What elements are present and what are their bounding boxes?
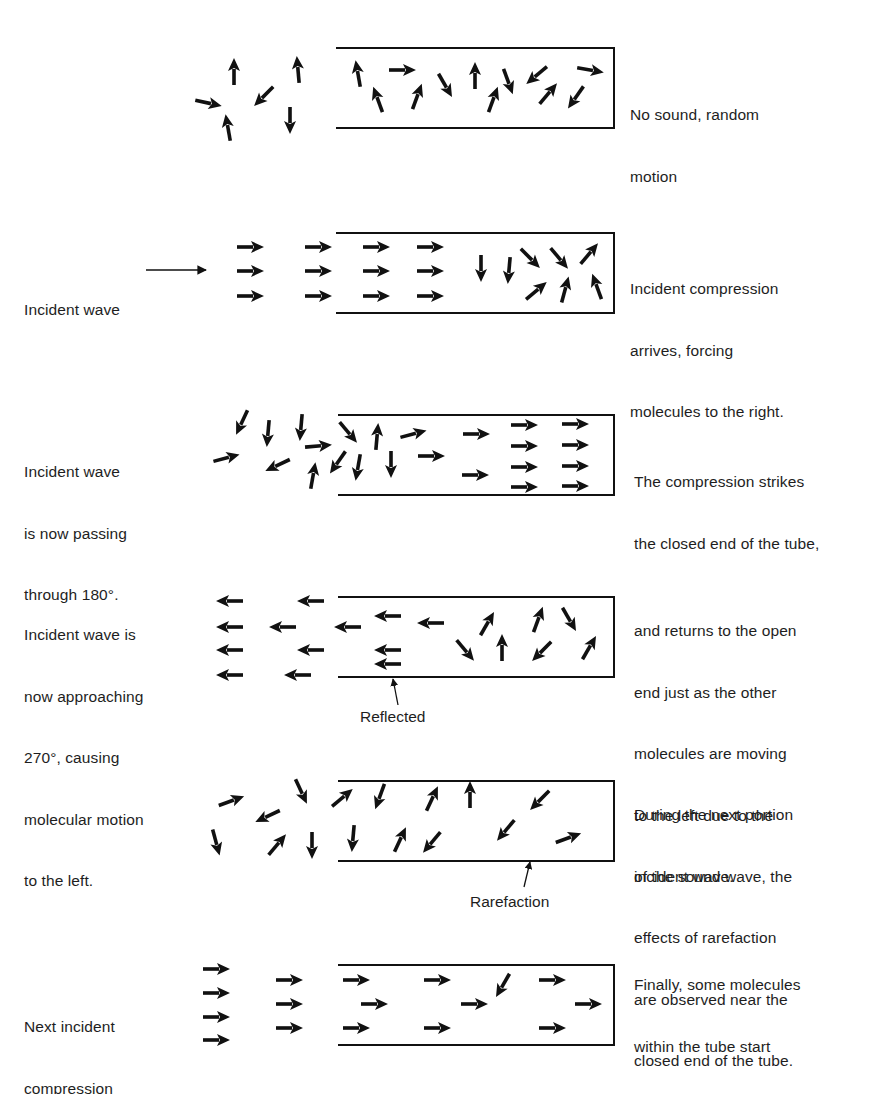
molecule-arrow-icon	[284, 669, 311, 681]
caption-line: motion	[630, 167, 759, 188]
molecule-arrow-icon	[522, 277, 550, 304]
molecule-arrow-icon	[475, 255, 487, 282]
molecule-arrow-icon	[562, 480, 589, 492]
molecule-arrow-icon	[577, 633, 601, 662]
molecule-arrow-icon	[511, 419, 538, 431]
molecule-arrow-icon	[306, 832, 318, 859]
molecule-arrow-icon	[237, 265, 264, 277]
molecule-arrow-icon	[463, 428, 490, 440]
molecule-arrow-icon	[269, 621, 296, 633]
caption-incident-compression: Incident compression arrives, forcing mo…	[630, 238, 784, 464]
caption-line: end just as the other	[634, 683, 797, 704]
molecule-arrow-icon	[562, 418, 589, 430]
molecule-arrow-icon	[517, 245, 545, 273]
molecule-arrow-icon	[562, 460, 589, 472]
molecule-arrow-icon	[576, 239, 603, 267]
molecule-arrow-icon	[563, 83, 588, 112]
molecule-arrow-icon	[346, 825, 360, 853]
molecule-arrow-icon	[228, 58, 240, 85]
caption-line: the closed end of the tube,	[634, 534, 819, 555]
molecule-arrow-icon	[496, 634, 508, 661]
molecule-arrow-icon	[291, 56, 305, 84]
molecule-arrow-icon	[284, 107, 296, 134]
molecule-arrow-icon	[461, 998, 488, 1010]
molecule-arrow-icon	[554, 828, 583, 849]
label-line: compression	[24, 1079, 115, 1094]
molecule-arrow-icon	[424, 974, 451, 986]
molecule-arrow-icon	[417, 241, 444, 253]
molecule-arrow-icon	[528, 638, 556, 666]
molecule-arrow-icon	[231, 408, 253, 438]
molecule-arrow-icon	[424, 1022, 451, 1034]
molecule-arrow-icon	[492, 816, 519, 844]
molecule-arrow-icon	[370, 782, 391, 811]
molecule-arrow-icon	[250, 83, 278, 111]
molecule-arrow-icon	[203, 963, 230, 975]
molecule-arrow-icon	[216, 621, 243, 633]
label-line: molecular motion	[24, 810, 144, 831]
caption-line: within the tube start	[634, 1037, 820, 1058]
caption-line: and returns to the open	[634, 621, 797, 642]
molecule-arrow-icon	[546, 244, 573, 272]
caption-line: of the sound wave, the	[634, 867, 793, 888]
molecule-arrow-icon	[237, 290, 264, 302]
sound-wave-tube-diagram: No sound, random motion Incident wave In…	[0, 0, 880, 1094]
molecule-arrow-icon	[389, 64, 416, 76]
molecule-arrow-icon	[237, 241, 264, 253]
label-line: is now passing	[24, 524, 127, 545]
molecule-arrow-icon	[491, 971, 515, 1000]
callout-pointer-icon	[393, 679, 398, 705]
molecule-arrow-icon	[363, 241, 390, 253]
molecule-arrow-icon	[368, 85, 389, 114]
left-label-incident-wave: Incident wave	[24, 259, 120, 362]
molecule-arrow-icon	[469, 62, 481, 89]
molecule-arrow-icon	[276, 998, 303, 1010]
molecule-arrow-icon	[290, 777, 312, 807]
molecule-arrow-icon	[350, 453, 367, 482]
label-line: Next incident	[24, 1017, 115, 1038]
molecule-arrow-icon	[343, 1022, 370, 1034]
molecule-arrow-icon	[528, 605, 549, 634]
molecule-arrow-icon	[475, 609, 499, 638]
left-label-next-compression: Next incident compression to the right	[24, 976, 115, 1094]
molecule-arrow-icon	[305, 439, 333, 453]
left-label-270: Incident wave is now approaching 270°, c…	[24, 584, 144, 933]
callout-pointer-icon	[524, 862, 530, 887]
molecule-arrow-icon	[526, 787, 554, 815]
label-line: Incident wave	[24, 462, 127, 483]
molecule-arrow-icon	[389, 825, 411, 855]
caption-compression-strikes: The compression strikes the closed end o…	[634, 431, 819, 595]
molecule-arrow-icon	[576, 62, 605, 79]
molecule-arrow-icon	[556, 275, 575, 304]
molecule-arrow-icon	[220, 113, 237, 142]
molecule-arrow-icon	[350, 59, 367, 88]
molecule-arrow-icon	[539, 1022, 566, 1034]
molecule-arrow-icon	[587, 272, 608, 301]
molecule-arrow-icon	[385, 451, 397, 478]
molecule-arrow-icon	[433, 71, 457, 100]
molecule-arrow-icon	[203, 1011, 230, 1023]
molecule-arrow-icon	[511, 481, 538, 493]
caption-line: The compression strikes	[634, 472, 819, 493]
label-line: to the left.	[24, 871, 144, 892]
molecule-arrow-icon	[328, 784, 356, 811]
molecule-arrow-icon	[562, 439, 589, 451]
molecule-arrow-icon	[374, 610, 401, 622]
molecule-arrow-icon	[203, 987, 230, 999]
molecule-arrow-icon	[464, 781, 476, 808]
molecule-arrow-icon	[203, 1034, 230, 1046]
molecule-arrow-icon	[511, 461, 538, 473]
molecule-arrow-icon	[216, 644, 243, 656]
caption-line: No sound, random	[630, 105, 759, 126]
molecule-arrow-icon	[216, 595, 243, 607]
callout-reflected: Reflected	[360, 708, 425, 726]
caption-line: arrives, forcing	[630, 341, 784, 362]
molecule-arrow-icon	[418, 828, 445, 856]
caption-line: During the next portion	[634, 805, 793, 826]
molecule-arrow-icon	[297, 644, 324, 656]
molecule-arrow-icon	[417, 290, 444, 302]
molecule-arrow-icon	[207, 828, 226, 857]
molecule-arrow-icon	[212, 449, 241, 468]
molecule-arrow-icon	[502, 257, 516, 285]
molecule-arrow-icon	[417, 265, 444, 277]
